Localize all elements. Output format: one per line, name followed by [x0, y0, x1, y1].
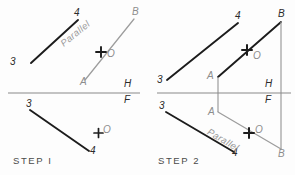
step2-top-label-a: A: [207, 70, 214, 81]
step1-top-label-a: A: [80, 76, 87, 87]
step1-front-label-3: 3: [26, 98, 32, 109]
step2-top-label-b: B: [278, 8, 285, 19]
step2-front-point-o-cross: [244, 128, 254, 138]
step1-top-label-4: 4: [74, 7, 80, 18]
step1-fold-label-f: F: [124, 94, 130, 105]
step1-front-label-4: 4: [90, 145, 96, 156]
step2-front-label-a: A: [208, 106, 215, 117]
step1-top-label-o: O: [107, 48, 115, 59]
step1-front-line-3-4: [30, 110, 89, 151]
step2-top-label-o: O: [253, 50, 261, 61]
step1-front-label-o: O: [103, 124, 111, 135]
step2-front-label-o: O: [255, 124, 263, 135]
step2-top-label-4: 4: [235, 10, 241, 21]
step1-top-label-3: 3: [10, 56, 16, 67]
step2-fold-label-h: H: [265, 78, 272, 89]
step2-front-label-3: 3: [159, 100, 165, 111]
step2-top-label-3: 3: [157, 74, 163, 85]
step1-fold-label-h: H: [124, 78, 131, 89]
step2-top-line-3-4: [167, 23, 238, 80]
step2-fold-label-f: F: [265, 94, 271, 105]
step1-top-label-b: B: [132, 6, 139, 17]
step2-front-label-b: B: [278, 148, 285, 159]
step1-caption: STEP I: [13, 155, 53, 166]
step2-caption: STEP 2: [158, 155, 200, 166]
step1-front-point-o-cross: [94, 129, 103, 138]
drawing-canvas: 3 4 A B O Parallel H F 3 4 O STEP I 3 4 …: [0, 0, 295, 175]
geometry-svg: [0, 0, 295, 175]
